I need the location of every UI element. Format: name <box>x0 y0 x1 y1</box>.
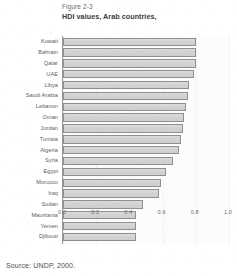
bar <box>63 103 186 111</box>
x-tick-label: 0.4 <box>124 209 132 215</box>
x-tick-label: 0.2 <box>91 209 99 215</box>
category-label: Sudan <box>42 201 58 208</box>
bar <box>63 233 136 241</box>
bar <box>63 38 196 46</box>
category-label: Saudi Arabia <box>26 92 58 99</box>
bar <box>63 81 189 89</box>
category-label: Tunisia <box>40 136 58 143</box>
figure-title: HDI values, Arab countries, <box>62 12 232 21</box>
x-axis-ticks: 0.00.20.40.60.81.0 <box>62 209 228 221</box>
category-label: Jordan <box>41 125 58 132</box>
bar <box>63 157 173 165</box>
category-label: Egypt <box>43 168 58 175</box>
bar <box>63 222 136 230</box>
bar <box>63 70 194 78</box>
category-label: Oman <box>43 114 58 121</box>
x-tick-label: 0.0 <box>58 209 66 215</box>
category-label: Lebanon <box>36 103 58 110</box>
figure-page: • • Figure 2-3 HDI values, Arab countrie… <box>0 0 237 276</box>
scan-artifact-right: — – <box>155 12 170 18</box>
bar <box>63 189 159 197</box>
category-label: Libya <box>44 82 58 89</box>
bar <box>63 146 179 154</box>
bar <box>63 168 166 176</box>
bar <box>63 135 181 143</box>
category-label: Yemen <box>41 223 58 230</box>
category-label: Djibouti <box>39 233 58 240</box>
figure-header: Figure 2-3 HDI values, Arab countries, <box>62 3 232 21</box>
category-label: Mauritania <box>31 212 58 219</box>
category-label: Bahrain <box>38 49 58 56</box>
bar <box>63 200 143 208</box>
x-tick-label: 0.6 <box>158 209 166 215</box>
bar <box>63 113 184 121</box>
category-label: Iraq <box>48 190 58 197</box>
category-label: Syria <box>45 157 58 164</box>
bar <box>63 92 188 100</box>
category-label: Kuwait <box>41 38 58 45</box>
source-note: Source: UNDP, 2000. <box>6 262 75 269</box>
x-tick-label: 0.8 <box>191 209 199 215</box>
bar <box>63 179 161 187</box>
bar <box>63 48 196 56</box>
category-label: Morocco <box>36 179 58 186</box>
bar <box>63 59 196 67</box>
figure-number: Figure 2-3 <box>62 3 232 11</box>
x-tick-label: 1.0 <box>224 209 232 215</box>
category-label: Algeria <box>40 147 58 154</box>
category-label: Qatar <box>44 60 58 67</box>
category-axis-labels: KuwaitBahrainQatarUAELibyaSaudi ArabiaLe… <box>0 36 61 244</box>
bar <box>63 124 183 132</box>
category-label: UAE <box>46 71 58 78</box>
